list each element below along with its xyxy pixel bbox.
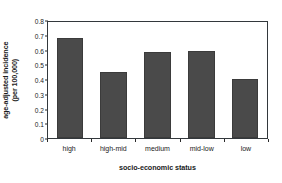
x-axis-tick-label: high <box>47 145 91 157</box>
bar <box>188 51 215 138</box>
bar-chart-figure: age-adjusted incidence (per 100,000) 0.8… <box>0 0 282 183</box>
y-axis-tick-labels: 0.80.70.60.50.40.30.20.10 <box>22 21 44 139</box>
y-axis-tick-label: 0.4 <box>35 77 44 84</box>
x-axis-tick-label: high-mid <box>91 145 135 157</box>
x-axis-tick-mark <box>224 139 225 142</box>
x-axis-tick-mark <box>91 139 92 142</box>
y-axis-title-line2: (per 100,000) <box>11 41 20 118</box>
y-axis-title: age-adjusted incidence (per 100,000) <box>0 21 22 139</box>
bar <box>144 52 171 138</box>
bar-series <box>48 22 267 138</box>
x-axis-tick-mark <box>47 139 48 142</box>
bar-slot <box>48 22 92 138</box>
bar <box>232 79 259 138</box>
bar-slot <box>179 22 223 138</box>
y-axis-title-text: age-adjusted incidence (per 100,000) <box>2 41 20 118</box>
x-axis-tick-marks <box>47 139 268 143</box>
bar-slot <box>136 22 180 138</box>
y-axis-tick-label: 0.5 <box>35 62 44 69</box>
bar-slot <box>223 22 267 138</box>
bar <box>57 38 84 138</box>
x-axis-tick-mark <box>135 139 136 142</box>
y-axis-tick-label: 0.2 <box>35 106 44 113</box>
x-axis-tick-labels: highhigh-midmediummid-lowlow <box>47 145 268 157</box>
y-axis-tick-label: 0.8 <box>35 18 44 25</box>
x-axis-tick-mark <box>268 139 269 142</box>
bar-slot <box>92 22 136 138</box>
x-axis-title: socio-economic status <box>47 163 268 172</box>
x-axis-tick-mark <box>180 139 181 142</box>
y-axis-tick-label: 0.6 <box>35 47 44 54</box>
x-axis-tick-label: mid-low <box>180 145 224 157</box>
plot-area <box>47 21 268 139</box>
x-axis-tick-label: low <box>224 145 268 157</box>
y-axis-tick-label: 0.3 <box>35 91 44 98</box>
bar <box>100 72 127 138</box>
y-axis-tick-label: 0.1 <box>35 121 44 128</box>
x-axis-tick-label: medium <box>135 145 179 157</box>
y-axis-tick-label: 0.7 <box>35 32 44 39</box>
y-axis-title-line1: age-adjusted incidence <box>2 41 11 118</box>
